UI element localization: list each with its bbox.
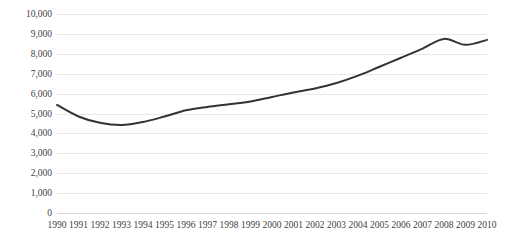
y-tick-label: 0 — [0, 208, 52, 218]
x-tick-label: 2007 — [413, 219, 432, 231]
x-tick-label: 2010 — [478, 219, 497, 231]
x-axis-tick-labels: 1990199119921993199419951996199719981999… — [57, 219, 487, 235]
y-axis-tick-labels: 01,0002,0003,0004,0005,0006,0007,0008,00… — [0, 0, 52, 240]
y-tick-label: 10,000 — [0, 9, 52, 19]
x-tick-label: 1991 — [69, 219, 88, 231]
x-tick-label: 2004 — [349, 219, 368, 231]
x-tick-label: 1990 — [48, 219, 67, 231]
series-layer — [57, 14, 487, 213]
x-tick-label: 1996 — [177, 219, 196, 231]
x-tick-label: 2005 — [370, 219, 389, 231]
y-tick-label: 6,000 — [0, 89, 52, 99]
x-tick-label: 1992 — [91, 219, 110, 231]
y-tick-label: 8,000 — [0, 49, 52, 59]
x-tick-label: 1997 — [198, 219, 217, 231]
x-tick-label: 1995 — [155, 219, 174, 231]
y-tick-label: 7,000 — [0, 69, 52, 79]
y-tick-label: 2,000 — [0, 168, 52, 178]
line-chart: 01,0002,0003,0004,0005,0006,0007,0008,00… — [0, 0, 508, 240]
x-tick-label: 2003 — [327, 219, 346, 231]
x-tick-label: 1998 — [220, 219, 239, 231]
series-line — [57, 39, 487, 125]
y-tick-label: 3,000 — [0, 148, 52, 158]
x-tick-label: 2009 — [456, 219, 475, 231]
plot-area — [57, 14, 487, 213]
y-tick-label: 5,000 — [0, 109, 52, 119]
x-tick-label: 2000 — [263, 219, 282, 231]
x-tick-label: 1999 — [241, 219, 260, 231]
y-tick-label: 4,000 — [0, 128, 52, 138]
x-tick-label: 2001 — [284, 219, 303, 231]
x-tick-label: 2006 — [392, 219, 411, 231]
y-tick-label: 1,000 — [0, 188, 52, 198]
gridline-0 — [57, 213, 487, 214]
y-tick-label: 9,000 — [0, 29, 52, 39]
x-tick-label: 2002 — [306, 219, 325, 231]
x-tick-label: 1994 — [134, 219, 153, 231]
x-tick-label: 2008 — [435, 219, 454, 231]
x-tick-label: 1993 — [112, 219, 131, 231]
